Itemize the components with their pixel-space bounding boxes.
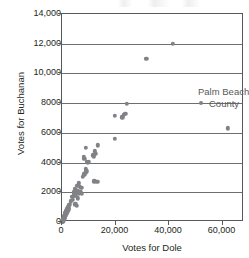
x-tick-label-0: 0 — [31, 225, 91, 235]
x-tick-mark-40000 — [168, 221, 169, 225]
x-tick-mark-20000 — [115, 221, 116, 225]
data-point — [123, 111, 127, 115]
data-point — [84, 146, 88, 150]
y-tick-label-6000: 6000 — [1, 127, 61, 137]
y-tick-mark-14000 — [58, 13, 61, 14]
x-tick-label-60000: 60,000 — [192, 225, 249, 235]
y-tick-mark-12000 — [58, 43, 61, 44]
gridline-12000 — [62, 44, 242, 45]
data-point — [76, 196, 80, 200]
annotation-line-2: County — [198, 98, 249, 110]
data-point — [80, 192, 84, 196]
palm-beach-county-annotation: Palm Beach County — [198, 86, 249, 109]
data-point — [95, 180, 99, 184]
annotation-line-1: Palm Beach — [198, 86, 249, 98]
y-tick-label-12000: 12,000 — [1, 38, 61, 48]
gridline-6000 — [62, 133, 242, 134]
y-tick-label-4000: 4000 — [1, 157, 61, 167]
y-tick-label-14000: 14,000 — [1, 8, 61, 18]
y-tick-mark-6000 — [58, 132, 61, 133]
data-point — [80, 174, 84, 178]
y-tick-mark-4000 — [58, 162, 61, 163]
x-axis-title: Votes for Dole — [61, 242, 243, 253]
y-tick-mark-10000 — [58, 72, 61, 73]
scatter-plot: Votes for Buchanan Votes for Dole 020004… — [0, 0, 249, 258]
data-point — [144, 56, 148, 60]
y-tick-mark-2000 — [58, 191, 61, 192]
data-point — [95, 143, 99, 147]
y-tick-label-10000: 10,000 — [1, 67, 61, 77]
gridline-2000 — [62, 192, 242, 193]
data-point — [125, 102, 129, 106]
data-point — [75, 203, 79, 207]
plot-area: Palm Beach County — [61, 13, 243, 221]
x-tick-mark-60000 — [222, 221, 223, 225]
y-tick-mark-8000 — [58, 102, 61, 103]
data-point — [113, 137, 117, 141]
data-point — [171, 42, 175, 46]
data-point — [226, 126, 230, 130]
gridline-10000 — [62, 73, 242, 74]
x-tick-label-40000: 40,000 — [138, 225, 198, 235]
y-tick-label-8000: 8000 — [1, 97, 61, 107]
data-point — [113, 114, 117, 118]
x-tick-label-20000: 20,000 — [85, 225, 145, 235]
x-tick-mark-0 — [61, 221, 62, 225]
cropped-title-artifact — [118, 0, 228, 7]
data-point — [92, 154, 96, 158]
y-tick-label-2000: 2000 — [1, 186, 61, 196]
